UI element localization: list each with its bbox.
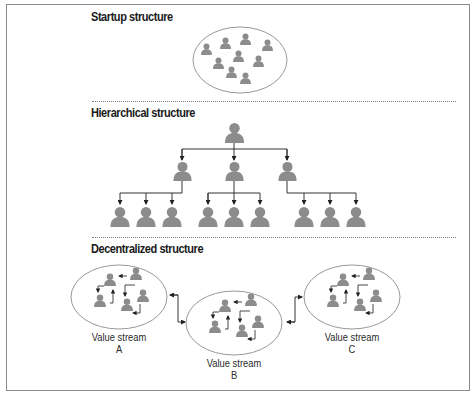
label-line2: C <box>322 343 382 355</box>
value-stream-c-label: Value stream C <box>322 331 382 355</box>
value-stream-a-cluster <box>94 268 149 313</box>
label-line1: Value stream <box>204 357 264 369</box>
startup-group <box>193 27 287 93</box>
hierarchy-people <box>110 123 365 227</box>
label-line2: B <box>204 369 264 381</box>
label-line1: Value stream <box>89 331 149 343</box>
value-stream-b-label: Value stream B <box>204 357 264 381</box>
value-stream-b-cluster <box>209 294 264 339</box>
label-line1: Value stream <box>322 331 382 343</box>
value-stream-a-label: Value stream A <box>89 331 149 355</box>
value-stream-c-cluster <box>327 268 382 313</box>
diagram-canvas <box>0 0 475 396</box>
label-line2: A <box>89 343 149 355</box>
